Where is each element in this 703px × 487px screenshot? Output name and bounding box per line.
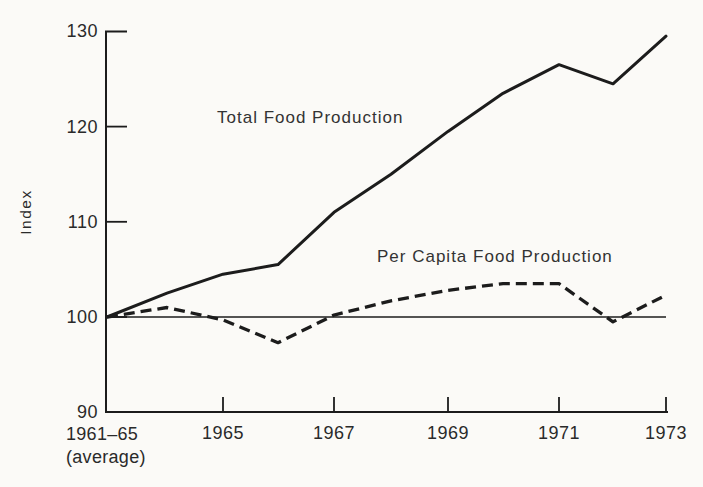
- y-axis-title: Index: [17, 172, 35, 252]
- y-tick-label-100: 100: [56, 307, 98, 327]
- y-tick-label-110: 110: [56, 212, 98, 232]
- x-tick-label-1965: 1965: [188, 423, 258, 444]
- series-label-per-capita-food-production: Per Capita Food Production: [377, 247, 613, 267]
- y-tick-label-130: 130: [56, 21, 98, 41]
- food-production-index-chart: Index 130 120 110 100 90 1961–65 (averag…: [0, 0, 703, 487]
- plot-canvas: [0, 0, 703, 487]
- x-tick-label-1971: 1971: [524, 423, 594, 444]
- x-tick-label-1967: 1967: [299, 423, 369, 444]
- x-axis-start-label-line2: (average): [66, 446, 146, 469]
- x-tick-label-1973: 1973: [631, 423, 701, 444]
- y-tick-label-90: 90: [56, 402, 98, 422]
- y-tick-label-120: 120: [56, 117, 98, 137]
- x-axis-start-label: 1961–65 (average): [66, 423, 146, 469]
- x-axis-start-label-line1: 1961–65: [66, 423, 146, 446]
- series-label-total-food-production: Total Food Production: [217, 108, 403, 128]
- x-tick-label-1969: 1969: [413, 423, 483, 444]
